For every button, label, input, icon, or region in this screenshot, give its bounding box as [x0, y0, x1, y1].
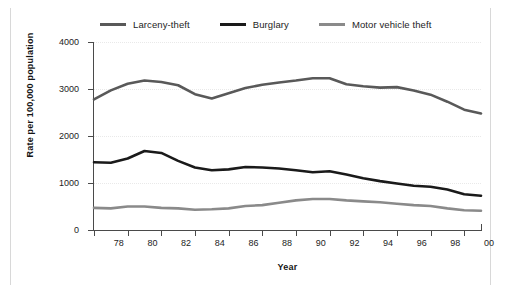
x-axis-tick-label: 98 [450, 238, 460, 248]
x-axis-tick-label: 78 [114, 238, 124, 248]
y-axis-tick-label: 0 [74, 225, 79, 235]
series-line [94, 199, 481, 211]
legend-item-burglary: Burglary [220, 19, 289, 30]
x-axis-tick-label: 86 [248, 238, 258, 248]
legend-swatch-motor-vehicle-theft [319, 23, 345, 26]
x-axis-tick [296, 230, 297, 236]
legend-label-motor-vehicle-theft: Motor vehicle theft [352, 19, 432, 30]
x-axis-title: Year [94, 262, 481, 272]
x-axis-tick [330, 230, 331, 236]
chart-figure: Larceny-theft Burglary Motor vehicle the… [0, 0, 518, 293]
x-axis-tick [94, 230, 95, 236]
y-axis-tick-label: 1000 [59, 178, 79, 188]
x-axis-tick [229, 230, 230, 236]
y-axis-tick-label: 3000 [59, 84, 79, 94]
legend-item-larceny-theft: Larceny-theft [100, 19, 190, 30]
x-axis-tick [363, 230, 364, 236]
x-axis-tick-label: 88 [282, 238, 292, 248]
legend-label-larceny-theft: Larceny-theft [133, 19, 190, 30]
series-line [94, 151, 481, 196]
chart-legend: Larceny-theft Burglary Motor vehicle the… [100, 16, 470, 32]
y-axis-tick-label: 4000 [59, 37, 79, 47]
y-axis-title: Rate per 100,000 population [25, 5, 35, 185]
x-axis-tick-label: 82 [181, 238, 191, 248]
series-layer [94, 42, 481, 230]
plot-area: 01000200030004000 7880828486889092949698… [94, 42, 481, 230]
legend-swatch-larceny-theft [100, 23, 126, 26]
x-axis-tick-label: 80 [147, 238, 157, 248]
x-axis-tick-label: 92 [349, 238, 359, 248]
x-axis-tick [161, 230, 162, 236]
x-axis-tick [195, 230, 196, 236]
x-axis-tick [431, 230, 432, 236]
x-axis-tick [128, 230, 129, 236]
x-axis-end-cap [481, 224, 482, 231]
frame-rule-left [10, 8, 11, 285]
legend-label-burglary: Burglary [253, 19, 289, 30]
x-axis-tick [397, 230, 398, 236]
x-axis-line [93, 230, 482, 231]
x-axis-tick-label: 90 [316, 238, 326, 248]
x-axis-tick [464, 230, 465, 236]
x-axis-tick [262, 230, 263, 236]
legend-item-motor-vehicle-theft: Motor vehicle theft [319, 19, 432, 30]
y-axis-tick-label: 2000 [59, 131, 79, 141]
series-line [94, 78, 481, 113]
x-axis-tick-label: 00 [484, 238, 494, 248]
x-axis-tick-label: 96 [417, 238, 427, 248]
x-axis-tick-label: 84 [215, 238, 225, 248]
x-axis-tick-label: 94 [383, 238, 393, 248]
legend-swatch-burglary [220, 23, 246, 26]
